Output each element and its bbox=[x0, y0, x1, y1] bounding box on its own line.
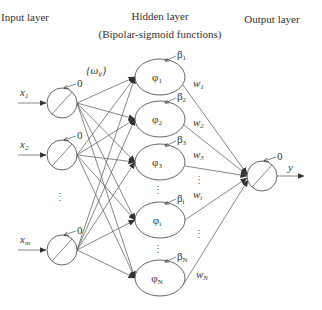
output-node: 0 y bbox=[247, 150, 304, 191]
input-node-m: xm 0 bbox=[18, 224, 83, 265]
hidden-layer-subtitle: (Bipolar-sigmoid functions) bbox=[99, 28, 222, 41]
svg-text:β3: β3 bbox=[177, 133, 187, 147]
svg-text:w3: w3 bbox=[193, 148, 204, 162]
input-bias-1: 0 bbox=[77, 77, 83, 89]
svg-text:βi: βi bbox=[177, 192, 185, 206]
input-layer-title: Input layer bbox=[1, 11, 49, 23]
output-label-y: y bbox=[287, 161, 293, 173]
hidden-node-i: φi βi wi bbox=[135, 188, 202, 238]
input-ellipsis: ⋮ bbox=[55, 191, 65, 202]
hidden-node-1: φ1 β1 w1 bbox=[135, 48, 204, 95]
hidden-node-3: φ3 β3 w3 bbox=[135, 133, 204, 180]
svg-text:wN: wN bbox=[196, 268, 208, 282]
weight-ellipsis-2: ⋮ bbox=[194, 228, 204, 239]
input-label-xm: xm bbox=[19, 233, 30, 247]
hidden-ellipsis-2: ⋮ bbox=[153, 243, 163, 254]
svg-text:w2: w2 bbox=[193, 116, 204, 130]
input-weights-label: {ωij} bbox=[86, 64, 107, 78]
input-bias-m: 0 bbox=[77, 224, 83, 236]
svg-text:w1: w1 bbox=[193, 77, 204, 91]
input-bias-2: 0 bbox=[77, 129, 83, 141]
svg-text:β2: β2 bbox=[177, 90, 187, 104]
hidden-layer-title: Hidden layer bbox=[131, 10, 188, 22]
hidden-node-N: φN βN wN bbox=[135, 250, 208, 296]
input-node-2: x2 0 bbox=[18, 129, 83, 170]
svg-text:βN: βN bbox=[177, 250, 188, 264]
rbf-network-diagram: Input layer Hidden layer (Bipolar-sigmoi… bbox=[0, 0, 322, 310]
hidden-node-2: φ2 β2 w2 bbox=[135, 90, 204, 137]
input-label-x1: x1 bbox=[19, 86, 28, 100]
output-bias: 0 bbox=[277, 150, 283, 162]
svg-text:β1: β1 bbox=[177, 48, 187, 62]
input-label-x2: x2 bbox=[19, 138, 29, 152]
hidden-output-connections bbox=[183, 85, 248, 285]
weight-ellipsis-1: ⋮ bbox=[194, 174, 204, 185]
input-hidden-connections bbox=[77, 77, 135, 278]
svg-text:wi: wi bbox=[193, 188, 202, 202]
output-layer-title: Output layer bbox=[244, 13, 300, 25]
hidden-ellipsis-1: ⋮ bbox=[153, 184, 163, 195]
input-node-1: x1 0 bbox=[18, 77, 83, 118]
